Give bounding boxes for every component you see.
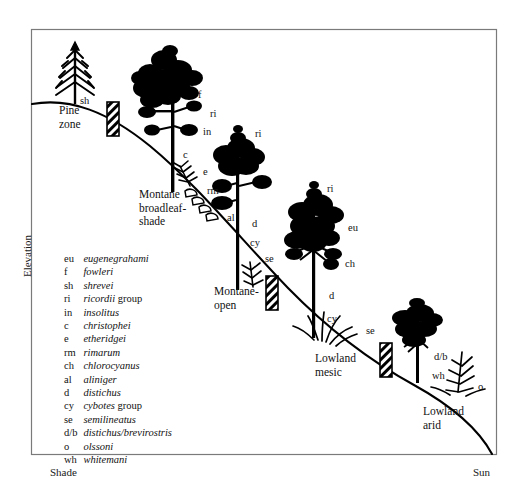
species-code-sh: sh	[80, 95, 89, 106]
legend-row: whwhitemani	[64, 453, 172, 466]
legend-abbreviation: rm	[64, 346, 83, 359]
legend-row: ininsolitus	[64, 306, 172, 319]
species-code-ri: ri	[210, 108, 216, 119]
legend-abbreviation: se	[64, 413, 83, 426]
legend-abbreviation: ri	[64, 292, 83, 305]
legend-species-name: fowleri	[83, 265, 171, 278]
species-code-in: in	[203, 126, 211, 137]
legend-species-name: aliniger	[83, 373, 171, 386]
legend-species-name: etheridgei	[83, 332, 171, 345]
legend-row: eueugenegrahami	[64, 252, 172, 265]
species-code-ri: ri	[255, 128, 261, 139]
species-code-cy: cy	[250, 237, 260, 248]
legend-row: ddistichus	[64, 386, 172, 399]
legend-abbreviation: f	[64, 265, 83, 278]
species-code-wh: wh	[432, 370, 445, 381]
legend-row: ffowleri	[64, 265, 172, 278]
zone-label-pine: Pine zone	[59, 104, 81, 131]
legend-abbreviation: d	[64, 386, 83, 399]
legend-row: riricordii group	[64, 292, 172, 305]
species-code-ch: ch	[345, 258, 355, 269]
species-code-o: o	[478, 381, 483, 392]
legend-species-suffix: group	[115, 400, 142, 411]
y-axis-label: Elevation	[21, 216, 33, 296]
legend-row: eetheridgei	[64, 332, 172, 345]
legend-abbreviation: sh	[64, 279, 83, 292]
legend-abbreviation: c	[64, 319, 83, 332]
legend-species-suffix: group	[115, 293, 142, 304]
species-code-d-b: d/b	[434, 351, 447, 362]
legend-species-name: distichus	[83, 386, 171, 399]
legend-species-name: whitemani	[83, 453, 171, 466]
legend-species-name: christophei	[83, 319, 171, 332]
legend-abbreviation: wh	[64, 453, 83, 466]
legend-row: cchristophei	[64, 319, 172, 332]
legend-species-name: distichus/brevirostris	[83, 426, 171, 439]
legend-abbreviation: cy	[64, 399, 83, 412]
legend-species-name: ricordii group	[83, 292, 171, 305]
legend-species-name: eugenegrahami	[83, 252, 171, 265]
zone-label-montane-broadleaf-shade: Montane broadleaf- shade	[139, 188, 186, 229]
species-code-al: al	[227, 212, 235, 223]
species-code-f: f	[198, 89, 202, 100]
legend-row: sesemilineatus	[64, 413, 172, 426]
legend-row: cycybotes group	[64, 399, 172, 412]
legend-abbreviation: in	[64, 306, 83, 319]
legend-species-name: olssoni	[83, 440, 171, 453]
legend-abbreviation: o	[64, 440, 83, 453]
legend-abbreviation: ch	[64, 359, 83, 372]
zone-divider-montane-shade-open	[266, 276, 278, 310]
legend-abbreviation: al	[64, 373, 83, 386]
species-legend: eueugenegrahamiffowlerishshreveiriricord…	[64, 252, 172, 467]
zone-divider-pine-montane	[107, 102, 119, 136]
species-code-se: se	[366, 325, 375, 336]
legend-species-name: shrevei	[83, 279, 171, 292]
zone-label-lowland-mesic: Lowland mesic	[315, 352, 356, 379]
species-code-rm: rm	[207, 185, 219, 196]
legend-row: d/bdistichus/brevirostris	[64, 426, 172, 439]
species-code-d: d	[252, 218, 257, 229]
species-code-eu: eu	[348, 222, 358, 233]
legend-species-name: semilineatus	[83, 413, 171, 426]
legend-row: oolssoni	[64, 440, 172, 453]
legend-species-name: rimarum	[83, 346, 171, 359]
legend-row: alaliniger	[64, 373, 172, 386]
zone-label-lowland-arid: Lowland arid	[423, 405, 464, 432]
species-code-ri: ri	[327, 183, 333, 194]
legend-species-name: chlorocyanus	[83, 359, 171, 372]
species-code-c: c	[183, 149, 188, 160]
x-axis-left-label: Shade	[50, 466, 77, 478]
legend-table: eueugenegrahamiffowlerishshreveiriricord…	[64, 252, 172, 467]
legend-row: shshrevei	[64, 279, 172, 292]
legend-abbreviation: e	[64, 332, 83, 345]
species-code-se: se	[265, 253, 274, 264]
zone-divider-open-lowland-mesic	[380, 343, 392, 377]
species-code-cy: cy	[327, 313, 337, 324]
legend-abbreviation: eu	[64, 252, 83, 265]
legend-row: rmrimarum	[64, 346, 172, 359]
species-code-d: d	[329, 290, 334, 301]
species-code-e: e	[203, 166, 208, 177]
x-axis-right-label: Sun	[473, 466, 490, 478]
legend-abbreviation: d/b	[64, 426, 83, 439]
legend-row: chchlorocyanus	[64, 359, 172, 372]
zone-label-montane-open: Montane- open	[214, 285, 259, 312]
legend-species-name: cybotes group	[83, 399, 171, 412]
legend-species-name: insolitus	[83, 306, 171, 319]
